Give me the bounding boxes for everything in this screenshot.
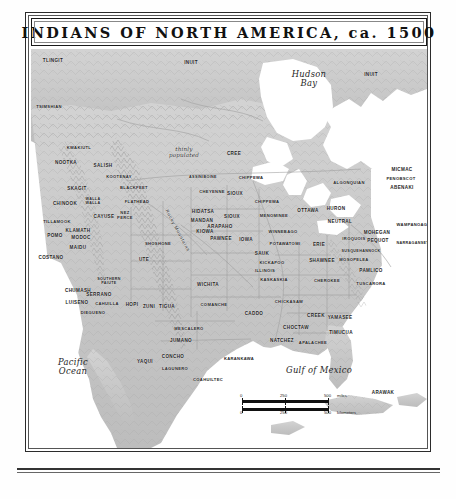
map-frame: INDIANS OF NORTH AMERICA, ca. 1500	[25, 12, 431, 452]
tribe-label-skagit: SKAGIT	[67, 186, 86, 191]
tribe-label-diegueno: DIEGUENO	[81, 311, 106, 316]
tribe-label-yamasee: YAMASEE	[328, 315, 353, 320]
tribe-label-choctaw: CHOCTAW	[283, 325, 309, 330]
tribe-label-concho: CONCHO	[162, 354, 185, 359]
scale-km-tick-500: 500	[324, 410, 331, 415]
map-page: INDIANS OF NORTH AMERICA, ca. 1500	[0, 0, 456, 499]
tribe-label-costano: COSTANO	[38, 255, 63, 260]
tribe-label-tlingit: TLINGIT	[43, 58, 63, 63]
tribe-label-mosopelea: MOSOPELEA	[339, 258, 368, 263]
scale-km-unit: kilometers	[337, 410, 356, 415]
tribe-label-yaqui: YAQUI	[137, 359, 153, 364]
pacific-ocean-label: PacificOcean	[58, 358, 88, 377]
tribe-label-chippewa: CHIPPEWA	[255, 200, 280, 205]
tribe-label-pomo: POMO	[47, 233, 62, 238]
tribe-label-kaskaskia: KASKASKIA	[260, 278, 288, 283]
scale-miles-tick-250: 250	[280, 393, 287, 398]
tribe-label-tillamook: TILLAMOOK	[43, 220, 70, 225]
tribe-label-pawnee: PAWNEE	[210, 236, 232, 241]
tribe-label-shawnee: SHAWNEE	[309, 258, 335, 263]
tribe-label-serrano: SERRANO	[86, 292, 111, 297]
tribe-label-mandan: MANDAN	[191, 218, 214, 223]
tribe-label-caddo: CADDO	[245, 311, 264, 316]
tribe-label-southern-paiute: SOUTHERNPAIUTE	[97, 277, 121, 285]
page-bottom-rule	[17, 468, 440, 474]
tribe-label-coahuiltec: COAHUILTEC	[193, 378, 223, 383]
tribe-label-tigua: TIGUA	[159, 304, 175, 309]
map-scale-bar: 0 250 500 miles 0 250 500 kilometers	[236, 394, 356, 416]
tribe-label-hopi: HOPI	[126, 302, 139, 307]
tribe-label-natchez: NATCHEZ	[270, 338, 294, 343]
tribe-label-tuscarora: TUSCARORA	[356, 282, 385, 287]
tribe-label-iowa: IOWA	[239, 237, 253, 242]
tribe-label-zuni: ZUNI	[143, 304, 155, 309]
tribe-label-arawak: ARAWAK	[372, 390, 395, 395]
page-title: INDIANS OF NORTH AMERICA, ca. 1500	[22, 24, 437, 41]
tribe-label-iroquois: IROQUOIS	[342, 237, 365, 242]
tribe-label-neutral: NEUTRAL	[328, 219, 352, 224]
tribe-label-cree: CREE	[227, 151, 241, 156]
tribe-label-ute: UTE	[139, 257, 149, 262]
tribe-label-apalachee: APALACHEE	[299, 341, 327, 346]
tribe-label-luiseno: LUISENO	[66, 300, 89, 305]
tribe-label-wampanoag: WAMPANOAG	[397, 223, 427, 228]
tribe-label-illinois: ILLINOIS	[255, 269, 275, 274]
tribe-label-micmac: MICMAC	[392, 167, 413, 172]
tribe-label-susquehannock: SUSQUEHANNOCK	[342, 249, 381, 253]
tribe-label-mescalero: MESCALERO	[174, 327, 203, 332]
tribe-label-comanche: COMANCHE	[201, 303, 228, 308]
scale-miles-tick-0: 0	[240, 393, 242, 398]
tribe-label-kwakiutl: KWAKIUTL	[67, 146, 91, 151]
tribe-label-chickasaw: CHICKASAW	[275, 300, 303, 305]
tribe-label-blackfeet: BLACKFEET	[120, 186, 148, 191]
tribe-label-huron: HURON	[327, 206, 346, 211]
tribe-label-erie: ERIE	[313, 242, 325, 247]
tribe-label-cherokee: CHEROKEE	[314, 279, 340, 284]
tribe-label-timucua: TIMUCUA	[329, 330, 353, 335]
tribe-label-nez-perce: NEZPERCE	[117, 211, 133, 220]
tribe-label-kootenay: KOOTENAY	[106, 175, 132, 180]
map-canvas: TLINGITINUITINUITTSIMSHIANKWAKIUTLNOOTKA…	[31, 49, 427, 448]
tribe-label-modoc: MODOC	[71, 235, 90, 240]
tribe-label-cahuilla: CAHUILLA	[95, 302, 119, 307]
tribe-label-inuit: INUIT	[184, 60, 198, 65]
tribe-label-cheyenne: CHEYENNE	[199, 190, 225, 195]
gulf-of-mexico-label: Gulf of Mexico	[286, 366, 352, 375]
tribe-label-hidatsa: HIDATSA	[192, 209, 215, 214]
tribe-label-ottawa: OTTAWA	[297, 208, 318, 213]
scale-miles-unit: miles	[337, 393, 347, 398]
tribe-label-walla-walla: WALLAWALLA	[86, 197, 101, 205]
hudson-bay-label: HudsonBay	[292, 70, 327, 89]
tribe-label-pequot: PEQUOT	[367, 238, 389, 243]
tribe-label-cayuse: CAYUSE	[94, 214, 115, 219]
thinly-populated-note: thinlypopulated	[169, 146, 199, 159]
tribe-label-kiowa: KIOWA	[196, 229, 213, 234]
tribe-label-tsimshian: TSIMSHIAN	[36, 105, 62, 110]
scale-km-tick-250: 250	[280, 410, 287, 415]
scale-miles-tick-500: 500	[324, 393, 331, 398]
map-title-bar: INDIANS OF NORTH AMERICA, ca. 1500	[31, 18, 427, 46]
scale-km-tick-0: 0	[240, 410, 242, 415]
tribe-label-pamlico: PAMLICO	[359, 268, 382, 273]
tribe-label-sioux: SIOUX	[227, 191, 243, 196]
tribe-label-abenaki: ABENAKI	[390, 185, 413, 190]
tribe-label-assiniboine: ASSINIBOINE	[189, 175, 217, 179]
tribe-label-inuit: INUIT	[364, 72, 378, 77]
tribe-label-sioux: SIOUX	[224, 214, 240, 219]
tribe-label-flathead: FLATHEAD	[125, 200, 150, 205]
tribe-label-chinook: CHINOOK	[53, 201, 77, 206]
tribe-label-winnebago: WINNEBAGO	[268, 230, 297, 235]
tribe-label-sauk: SAUK	[255, 251, 269, 256]
tribe-label-penobscot: PENOBSCOT	[386, 177, 415, 182]
tribe-label-jumano: JUMANO	[170, 338, 192, 343]
tribe-label-klamath: KLAMATH	[66, 228, 91, 233]
tribe-label-lagunero: LAGUNERO	[162, 367, 188, 372]
tribe-label-mohegan: MOHEGAN	[364, 230, 390, 235]
tribe-label-algonquian: ALGONQUIAN	[333, 181, 364, 186]
tribe-label-maidu: MAIDU	[70, 245, 87, 250]
tribe-label-nootka: NOOTKA	[55, 160, 77, 165]
tribe-label-potawatomi: POTAWATOMI	[270, 242, 301, 247]
tribe-label-kickapoo: KICKAPOO	[260, 261, 285, 266]
tribe-label-narragansett: NARRAGANSETT	[396, 241, 427, 245]
tribe-label-shoshone: SHOSHONE	[145, 242, 171, 247]
